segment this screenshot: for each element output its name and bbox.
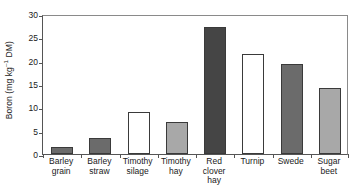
y-axis-title-prefix: Boron (mg kg [4,67,14,119]
x-axis-category-label-line: silage [119,167,157,177]
x-axis-category-label: Barleystraw [80,157,118,176]
x-axis-category-label: Timothysilage [119,157,157,176]
bar-series [43,16,347,154]
x-axis-category-label: Sugarbeet [310,157,348,176]
x-axis-category-label-line: Turnip [233,157,271,167]
y-axis-tick-label: 25 [16,34,38,43]
bar [204,27,226,154]
x-axis-category-label: Swede [272,157,310,167]
y-axis-tick-label: 10 [16,104,38,113]
bar [242,54,264,154]
x-axis-category-label: Timothyhay [157,157,195,176]
y-axis-tick-label: 15 [16,81,38,90]
x-axis-category-label-line: beet [310,167,348,177]
x-axis-category-label-line: grain [42,167,80,177]
y-axis-title-suffix: DM) [4,41,14,60]
bar [319,88,341,154]
y-axis-tick-label: 30 [16,11,38,20]
plot-area [42,15,348,155]
y-axis-title-superscript: –1 [2,60,9,67]
bar-chart-figure: Boron (mg kg–1 DM) 051015202530 Barleygr… [0,0,355,192]
x-axis-category-label-line: straw [80,167,118,177]
x-axis-category-label-line: hay [157,167,195,177]
x-axis-category-label-line: Swede [272,157,310,167]
x-axis-category-label-line: hay [195,176,233,186]
bar [281,64,303,154]
y-axis-tick-label: 0 [16,151,38,160]
x-axis-category-label: Barleygrain [42,157,80,176]
y-axis-title-text: Boron (mg kg–1 DM) [5,41,14,119]
x-axis-tick-mark [348,154,349,158]
bar [51,147,73,154]
x-axis-category-labels: BarleygrainBarleystrawTimothysilageTimot… [42,157,348,192]
x-axis-category-label: Turnip [233,157,271,167]
bar [166,122,188,154]
x-axis-category-label: Redcloverhay [195,157,233,186]
y-axis-tick-label: 20 [16,57,38,66]
bar [128,112,150,154]
bar [89,138,111,154]
y-axis-tick-labels: 051015202530 [16,0,38,192]
y-axis-tick-label: 5 [16,127,38,136]
